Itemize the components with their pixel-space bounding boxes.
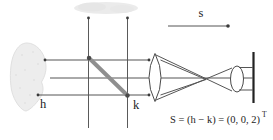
ray-bottom-lens-dot <box>148 94 151 97</box>
lattice-line-right-top-dot <box>126 17 129 20</box>
label-h: h <box>40 97 47 111</box>
ray-bottom-left-dot <box>37 94 40 97</box>
focal-cone-inner-bottom <box>161 80 207 96</box>
focal-cone-inner-top <box>161 60 207 80</box>
ray-top-lens-dot <box>148 59 151 62</box>
label-k: k <box>133 98 140 112</box>
eyepiece-lens <box>231 66 244 92</box>
ray-top-left-dot <box>44 59 47 62</box>
s-direction-arrow: s <box>168 6 230 28</box>
s-arrow-head-dot <box>226 24 230 28</box>
diagram-canvas: s h k S = (h − k) = (0, 0, 2) T <box>0 0 273 140</box>
objective-lens <box>149 54 161 102</box>
formula-text: S = (h − k) = (0, 0, 2) <box>170 114 261 126</box>
beam-splitter-top-dot <box>87 56 91 60</box>
erased-smudge <box>74 2 138 14</box>
optics-diffraction-figure: s h k S = (h − k) = (0, 0, 2) T <box>0 0 273 140</box>
beam-splitter-line <box>89 58 127 95</box>
formula-superscript: T <box>262 110 267 119</box>
lattice-line-left-top-dot <box>87 17 90 20</box>
label-s: s <box>199 6 204 20</box>
beam-splitter-bottom-dot <box>125 93 129 97</box>
